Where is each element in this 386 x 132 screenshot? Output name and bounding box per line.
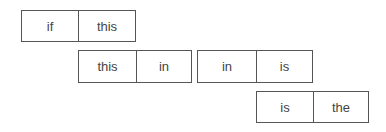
bigram-box-if-this: if this [21, 10, 136, 42]
bigram-first-word: if [22, 11, 79, 41]
bigram-box-is-the: is the [256, 91, 369, 123]
bigram-first-word: in [198, 51, 257, 82]
bigram-second-word: is [257, 51, 312, 82]
bigram-box-this-in: this in [78, 50, 192, 83]
bigram-second-word: this [79, 11, 135, 41]
bigram-first-word: is [257, 92, 314, 122]
bigram-second-word: the [314, 92, 368, 122]
bigram-second-word: in [137, 51, 191, 82]
bigram-first-word: this [79, 51, 137, 82]
bigram-box-in-is: in is [197, 50, 313, 83]
